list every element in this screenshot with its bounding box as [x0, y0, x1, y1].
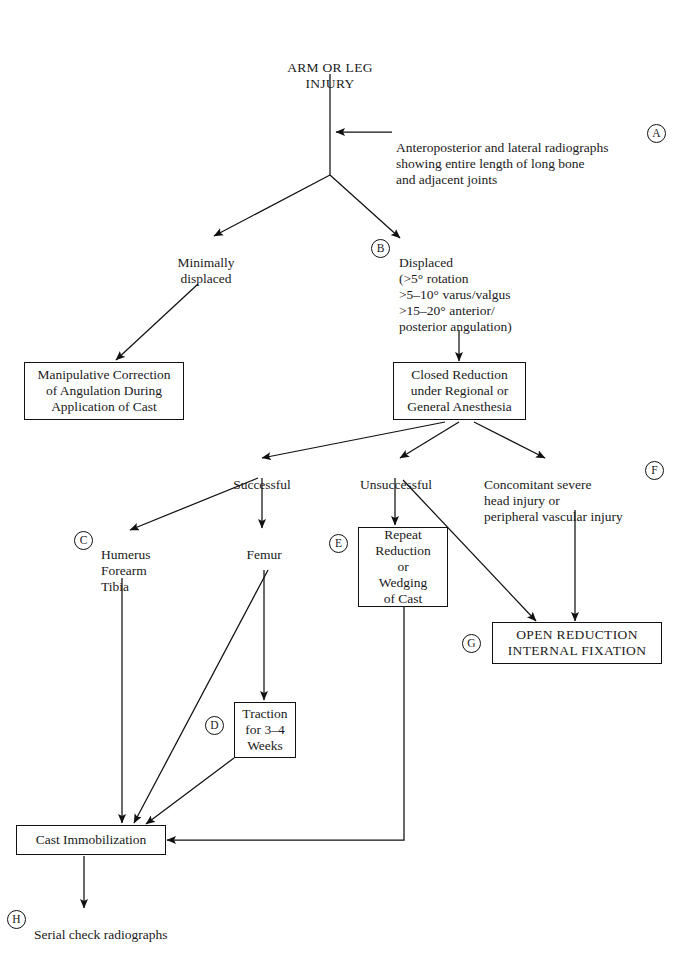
node-minimally-displaced-label: Minimally displaced: [178, 255, 235, 286]
reference-label-e: E: [329, 534, 348, 553]
node-unsuccessful-label: Unsuccessful: [360, 477, 432, 492]
node-successful: Successful: [212, 461, 312, 493]
node-serial-check: Serial check radiographs: [34, 911, 254, 943]
reference-label-d: D: [205, 716, 224, 735]
node-root-injury: ARM OR LEG INJURY: [255, 44, 405, 93]
node-unsuccessful: Unsuccessful: [345, 461, 447, 493]
node-traction: Traction for 3–4 Weeks: [234, 702, 296, 758]
node-cast-immobilization-label: Cast Immobilization: [36, 832, 147, 848]
reference-label-h: H: [7, 910, 26, 929]
node-minimally-displaced: Minimally displaced: [158, 239, 254, 287]
node-femur-label: Femur: [246, 547, 281, 562]
reference-label-b: B: [371, 239, 390, 258]
node-cast-immobilization: Cast Immobilization: [16, 825, 166, 855]
node-radiographs: Anteroposterior and lateral radiographs …: [396, 124, 636, 188]
node-successful-label: Successful: [233, 477, 291, 492]
reference-label-f: F: [645, 461, 664, 480]
node-bone-group-label: Humerus Forearm Tibia: [101, 547, 151, 594]
node-root-injury-label: ARM OR LEG INJURY: [287, 60, 373, 91]
node-repeat-reduction-label: Repeat Reduction or Wedging of Cast: [375, 527, 431, 608]
node-displaced-label: Displaced (>5° rotation >5–10° varus/val…: [399, 255, 512, 334]
node-closed-reduction-label: Closed Reduction under Regional or Gener…: [407, 367, 512, 416]
node-concomitant-injury: Concomitant severe head injury or periph…: [484, 461, 634, 525]
reference-label-g: G: [462, 634, 481, 653]
node-closed-reduction: Closed Reduction under Regional or Gener…: [393, 362, 526, 420]
node-manipulative-correction: Manipulative Correction of Angulation Du…: [24, 362, 184, 420]
reference-label-a: A: [647, 124, 666, 143]
node-open-reduction: OPEN REDUCTION INTERNAL FIXATION: [492, 622, 662, 664]
node-manipulative-correction-label: Manipulative Correction of Angulation Du…: [37, 367, 170, 416]
node-concomitant-injury-label: Concomitant severe head injury or periph…: [484, 477, 623, 524]
reference-label-c: C: [74, 531, 93, 550]
node-serial-check-label: Serial check radiographs: [34, 927, 167, 942]
node-open-reduction-label: OPEN REDUCTION INTERNAL FIXATION: [508, 627, 647, 659]
node-traction-label: Traction for 3–4 Weeks: [242, 706, 287, 755]
node-repeat-reduction: Repeat Reduction or Wedging of Cast: [358, 527, 448, 607]
node-displaced: Displaced (>5° rotation >5–10° varus/val…: [399, 239, 589, 335]
node-radiographs-label: Anteroposterior and lateral radiographs …: [396, 140, 609, 187]
flowchart-page: ARM OR LEG INJURY Anteroposterior and la…: [0, 0, 690, 966]
node-femur: Femur: [222, 531, 306, 563]
node-bone-group: Humerus Forearm Tibia: [101, 531, 191, 595]
